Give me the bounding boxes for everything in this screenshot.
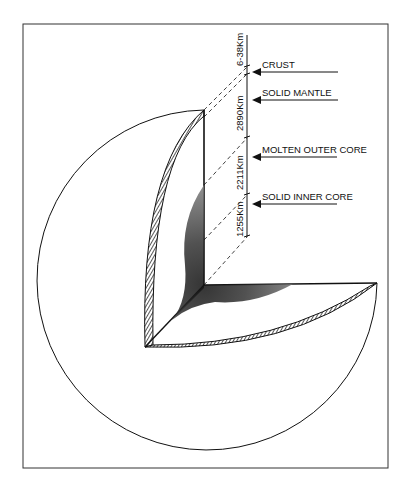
label-molten-outer-core: MOLTEN OUTER CORE xyxy=(252,144,367,161)
earth-interior-diagram: 6-38Km 2890Km 2211Km 1255Km CRUST SOLID … xyxy=(0,0,410,497)
thickness-crust: 6-38Km xyxy=(234,33,245,66)
arrow-icon xyxy=(252,96,261,104)
projection-inner-core xyxy=(204,237,247,285)
svg-text:SOLID INNER CORE: SOLID INNER CORE xyxy=(262,191,353,202)
arrow-icon xyxy=(252,153,261,161)
arrow-icon xyxy=(252,200,261,208)
label-solid-inner-core: SOLID INNER CORE xyxy=(252,191,353,208)
thickness-inner-core: 1255Km xyxy=(234,202,245,237)
arrow-icon xyxy=(252,68,261,76)
svg-text:MOLTEN OUTER CORE: MOLTEN OUTER CORE xyxy=(262,144,367,155)
svg-text:SOLID MANTLE: SOLID MANTLE xyxy=(262,87,332,98)
label-solid-mantle: SOLID MANTLE xyxy=(252,87,338,104)
thickness-outer-core: 2211Km xyxy=(234,155,245,190)
svg-text:CRUST: CRUST xyxy=(262,59,295,70)
earth-outer-surface xyxy=(37,110,377,450)
frame-border xyxy=(23,24,388,468)
thickness-mantle: 2890Km xyxy=(234,96,245,131)
label-crust: CRUST xyxy=(252,59,338,76)
